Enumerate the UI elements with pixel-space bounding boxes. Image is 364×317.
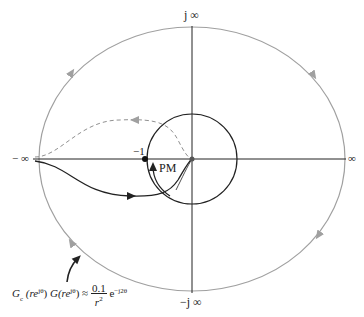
critical-point-label: −1 xyxy=(133,145,145,157)
pos-real-label: ∞ xyxy=(348,152,356,164)
phase-margin-label: PM xyxy=(159,161,176,176)
formula-arg2: (re xyxy=(58,287,70,299)
pos-imag-label: j ∞ xyxy=(184,8,199,23)
formula-approx: ≈ xyxy=(82,287,88,299)
secondary-curve xyxy=(176,159,192,190)
neg-real-label: − ∞ xyxy=(12,152,29,164)
formula-sub: c xyxy=(20,295,23,303)
formula-den: r2 xyxy=(91,294,107,307)
formula-num: 0.1 xyxy=(91,283,107,294)
formula-fraction: 0.1 r2 xyxy=(91,283,107,307)
formula-arg1: (re xyxy=(26,287,38,299)
neg-imag-label: −j ∞ xyxy=(180,295,202,310)
dashed-curve xyxy=(35,120,192,159)
formula-e-exp: −j2θ xyxy=(114,287,127,295)
formula-g: G xyxy=(50,287,58,299)
origin-point xyxy=(190,157,195,162)
formula-close2: ) xyxy=(76,287,80,299)
pointer-arrow-icon xyxy=(67,258,78,282)
formula-close1: ) xyxy=(44,287,48,299)
formula-gc: G xyxy=(12,287,20,299)
formula: Gc (rejθ) G(rejθ) ≈ 0.1 r2 e−j2θ xyxy=(12,283,127,307)
nyquist-plot xyxy=(0,0,364,317)
